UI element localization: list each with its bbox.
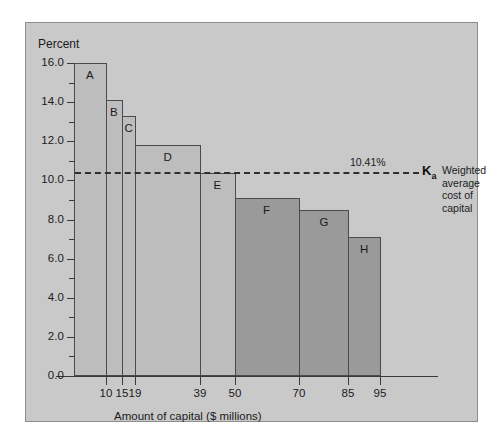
x-tick (122, 377, 123, 385)
bar-c (122, 116, 136, 376)
x-tick-label: 39 (180, 387, 220, 399)
wacc-dashed-line (75, 172, 419, 174)
figure-container: 0.02.04.06.08.010.012.014.016.0PercentAB… (0, 0, 501, 445)
bar-label-f: F (263, 204, 270, 216)
bar-f (235, 198, 300, 376)
bar-d (135, 145, 201, 376)
y-tick-label: 12.0 (22, 134, 64, 146)
x-tick (299, 377, 300, 385)
bar-label-e: E (214, 179, 222, 191)
y-major-tick (67, 259, 74, 260)
wacc-symbol-subscript: a (431, 171, 436, 181)
y-tick-label: 8.0 (22, 213, 64, 225)
y-tick-label: 16.0 (22, 56, 64, 68)
y-major-tick (67, 63, 74, 64)
x-tick (235, 377, 236, 385)
x-axis-title: Amount of capital ($ millions) (114, 410, 262, 422)
wacc-symbol-letter: K (422, 163, 431, 178)
bar-label-a: A (86, 69, 94, 81)
bar-label-h: H (360, 243, 368, 255)
x-tick (380, 377, 381, 385)
y-tick-label: 4.0 (22, 291, 64, 303)
y-major-tick (67, 298, 74, 299)
x-tick (348, 377, 349, 385)
bar-e (200, 173, 236, 376)
y-major-tick (67, 102, 74, 103)
plot-area: 0.02.04.06.08.010.012.014.016.0PercentAB… (0, 0, 501, 445)
y-tick-label: 10.0 (22, 173, 64, 185)
y-tick-label: 0.0 (22, 369, 64, 381)
y-tick-label: 6.0 (22, 252, 64, 264)
x-tick-label: 19 (115, 387, 155, 399)
y-tick-label: 2.0 (22, 330, 64, 342)
wacc-caption: Weighted average cost of capital (442, 164, 501, 214)
x-tick-label: 50 (215, 387, 255, 399)
bar-label-b: B (110, 106, 118, 118)
y-major-tick (67, 141, 74, 142)
bar-h (348, 237, 381, 376)
x-tick (200, 377, 201, 385)
y-major-tick (67, 220, 74, 221)
y-axis-title: Percent (38, 37, 79, 51)
x-tick-label: 95 (360, 387, 400, 399)
bar-g (299, 210, 349, 376)
bar-label-d: D (164, 151, 172, 163)
x-tick (106, 377, 107, 385)
x-tick-label: 70 (279, 387, 319, 399)
bar-b (106, 100, 123, 376)
wacc-symbol: Ka (422, 163, 436, 181)
bar-label-c: C (125, 122, 133, 134)
y-major-tick (67, 337, 74, 338)
y-tick-label: 14.0 (22, 95, 64, 107)
y-major-tick (67, 376, 74, 377)
y-major-tick (67, 180, 74, 181)
bar-label-g: G (320, 216, 329, 228)
bar-a (74, 63, 107, 376)
x-tick (135, 377, 136, 385)
wacc-value-label: 10.41% (350, 156, 386, 168)
